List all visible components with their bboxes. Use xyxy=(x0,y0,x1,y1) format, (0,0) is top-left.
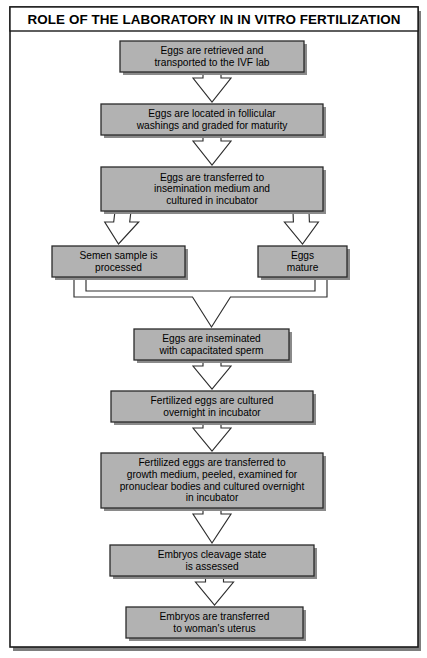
flow-node: Eggs are inseminatedwith capacitated spe… xyxy=(134,329,292,363)
flow-node-label: Semen sample is xyxy=(79,250,157,261)
flow-node-label: with capacitated sperm xyxy=(158,345,263,356)
flow-node: Fertilized eggs are culturedovernight in… xyxy=(111,391,316,425)
flow-node: Embryos are transferredto woman's uterus xyxy=(126,607,306,641)
flow-node-label: processed xyxy=(95,262,142,273)
flow-node-label: Eggs are transferred to xyxy=(160,172,265,183)
flow-node-label: Embryos cleavage state xyxy=(158,549,267,560)
flow-node-label: mature xyxy=(287,262,319,273)
flow-node-label: Fertilized eggs are cultured xyxy=(151,395,274,406)
flow-node-label: growth medium, peeled, examined for xyxy=(127,469,298,480)
flow-node: Fertilized eggs are transferred togrowth… xyxy=(101,453,326,511)
flow-node: Semen sample isprocessed xyxy=(52,246,188,280)
flow-node-label: cultured in incubator xyxy=(166,195,258,206)
flow-node-label: pronuclear bodies and cultured overnight xyxy=(120,481,305,492)
flow-node-label: Eggs xyxy=(291,250,314,261)
flow-node-label: to woman's uterus xyxy=(173,623,255,634)
page-title: ROLE OF THE LABORATORY IN IN VITRO FERTI… xyxy=(27,12,400,27)
flow-node-label: Fertilized eggs are transferred to xyxy=(138,457,286,468)
flow-node-label: Embryos are transferred xyxy=(160,611,270,622)
flow-node-label: Eggs are retrieved and xyxy=(160,45,263,56)
flow-node-label: Eggs are located in follicular xyxy=(148,108,276,119)
flow-node-label: overnight in incubator xyxy=(163,407,261,418)
flow-node-label: Eggs are inseminated xyxy=(162,333,261,344)
flowchart-figure: ROLE OF THE LABORATORY IN IN VITRO FERTI… xyxy=(0,0,427,658)
flow-node: Eggs are transferred toinsemination medi… xyxy=(101,167,326,214)
flow-node-label: transported to the IVF lab xyxy=(155,57,270,68)
flow-node: Embryos cleavage stateis assessed xyxy=(110,545,317,579)
flowchart-canvas: ROLE OF THE LABORATORY IN IN VITRO FERTI… xyxy=(0,0,427,658)
flow-node-label: is assessed xyxy=(185,561,239,572)
flow-node: Eggsmature xyxy=(258,246,350,280)
flow-node-label: in incubator xyxy=(186,492,239,503)
flow-node: Eggs are retrieved andtransported to the… xyxy=(120,41,307,75)
flow-node-label: washings and graded for maturity xyxy=(136,120,289,131)
flow-node-label: insemination medium and xyxy=(154,183,270,194)
flow-node: Eggs are located in follicularwashings a… xyxy=(101,104,326,138)
